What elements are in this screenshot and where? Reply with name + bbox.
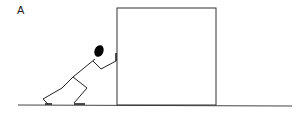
torso <box>73 59 95 77</box>
head-icon <box>93 44 106 58</box>
back-leg <box>43 77 73 104</box>
stick-figure <box>43 44 116 104</box>
front-leg <box>73 77 87 103</box>
diagram-canvas <box>0 0 306 115</box>
box <box>117 8 216 105</box>
arm <box>93 61 116 69</box>
